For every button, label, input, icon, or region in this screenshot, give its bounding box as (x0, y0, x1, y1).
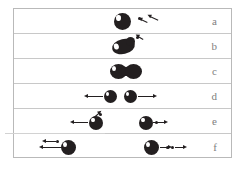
neutron-arrow-incoming-2 (141, 19, 148, 23)
stage-c-graphics (14, 59, 231, 83)
fragment-right (139, 116, 153, 130)
row-label-a: a (212, 16, 217, 27)
nucleus-lobe-bump (126, 37, 135, 46)
fragment-right (124, 90, 137, 103)
nucleus-highlight (113, 43, 119, 50)
row-label-d: d (212, 91, 218, 102)
fragment-arrow-left (87, 96, 103, 97)
diagram-row-a: a (14, 9, 231, 34)
neutron-dot-right-2 (166, 146, 169, 149)
row-label-e: e (212, 116, 217, 127)
diagram-row-e: e (14, 109, 231, 134)
diagram-row-d: d (14, 84, 231, 109)
nucleus-necked (110, 64, 142, 79)
stage-f-graphics (14, 134, 231, 159)
fragment-arrow-left (42, 147, 62, 148)
neutron-dot-left (56, 140, 59, 143)
nucleus-lobe-right (125, 64, 142, 79)
fragment-arrow-right (153, 122, 165, 123)
row-label-f: f (213, 141, 217, 152)
neutron-dot-right-1 (171, 146, 174, 149)
fragment-right (144, 140, 159, 155)
fragment-highlight (106, 92, 109, 96)
diagram-row-b: b (14, 34, 231, 59)
fragment-highlight (146, 142, 150, 147)
row-label-c: c (212, 66, 217, 77)
fragment-highlight (63, 142, 67, 147)
stage-b-graphics (14, 34, 231, 58)
neutron-arrow-incoming (150, 16, 159, 21)
fragment-left (104, 90, 117, 103)
stage-a-graphics (14, 9, 231, 33)
neutron-arrow-left-emitted (45, 141, 56, 142)
nucleus-sphere (114, 13, 131, 30)
row-label-b: b (212, 41, 218, 52)
diagram-row-c: c (14, 59, 231, 84)
neutron-arrow-right-emitted (175, 147, 184, 148)
stage-e-graphics (14, 109, 231, 133)
fragment-arrow-left (73, 122, 88, 123)
fragment-highlight (126, 92, 129, 96)
diagram-row-f: f (14, 134, 231, 159)
nucleus-highlight (112, 66, 116, 71)
stage-d-graphics (14, 84, 231, 108)
fragment-left (61, 140, 76, 155)
fragment-highlight (91, 118, 95, 123)
fragment-arrow-right (138, 96, 154, 97)
fragment-left (89, 116, 103, 130)
nucleus-highlight (116, 15, 120, 21)
fission-stages-figure: a b c (13, 8, 232, 158)
fragment-highlight (141, 118, 145, 123)
